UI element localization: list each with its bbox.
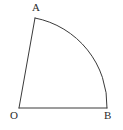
vertex-label-b: B bbox=[104, 110, 111, 121]
geometry-figure: A O B bbox=[0, 0, 123, 130]
segment-oa bbox=[19, 18, 35, 108]
vertex-label-o: O bbox=[10, 110, 18, 121]
vertex-label-a: A bbox=[32, 2, 40, 13]
arc-ab bbox=[35, 18, 107, 108]
